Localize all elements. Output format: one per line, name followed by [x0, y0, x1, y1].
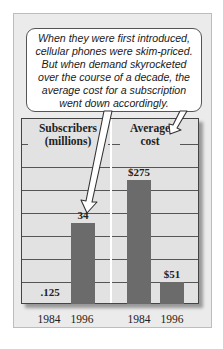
x-label-subs-1996: 1996 — [64, 313, 100, 325]
x-label-cost-1996: 1996 — [154, 313, 190, 325]
x-label-subs-1984: 1984 — [31, 313, 67, 325]
callout-arrows-icon — [0, 0, 223, 349]
x-label-cost-1984: 1984 — [121, 313, 157, 325]
